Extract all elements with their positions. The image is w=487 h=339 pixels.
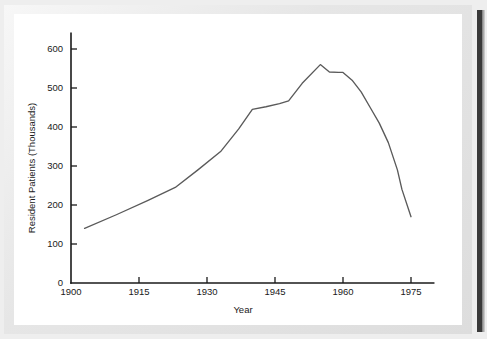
y-axis-tick-label: 300 xyxy=(47,160,63,171)
x-axis-tick-label: 1960 xyxy=(332,286,353,297)
y-axis-tick-label: 600 xyxy=(47,43,63,54)
series-line-resident-patients xyxy=(85,65,411,229)
y-axis-tick-label: 400 xyxy=(47,121,63,132)
y-axis-ticks: 0100200300400500600 xyxy=(47,43,77,288)
x-axis-tick-label: 1945 xyxy=(264,286,285,297)
x-axis-ticks: 190019151930194519601975 xyxy=(60,277,421,297)
y-axis-tick-label: 100 xyxy=(47,238,63,249)
x-axis-tick-label: 1900 xyxy=(60,286,81,297)
x-axis-title: Year xyxy=(233,304,252,315)
chart-page: 0100200300400500600 19001915193019451960… xyxy=(0,0,487,339)
y-axis-title: Resident Patients (Thousands) xyxy=(26,103,37,233)
x-axis-tick-label: 1930 xyxy=(196,286,217,297)
line-chart-svg: 0100200300400500600 19001915193019451960… xyxy=(0,0,487,339)
axes-group xyxy=(71,33,434,283)
y-axis-tick-label: 500 xyxy=(47,82,63,93)
x-axis-tick-label: 1915 xyxy=(128,286,149,297)
y-axis-tick-label: 200 xyxy=(47,199,63,210)
x-axis-tick-label: 1975 xyxy=(400,286,421,297)
data-series-group xyxy=(85,65,411,229)
plot-area: 0100200300400500600 19001915193019451960… xyxy=(0,0,487,339)
